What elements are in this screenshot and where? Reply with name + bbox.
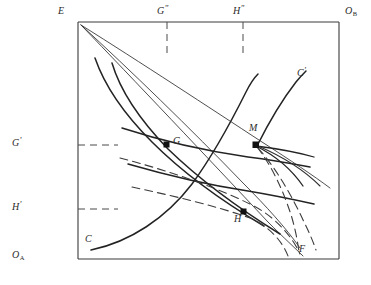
dashed-offer-2	[132, 187, 288, 256]
label-curve-c: C	[85, 234, 92, 244]
label-point-g: G	[173, 136, 180, 146]
label-origin-a: OA	[12, 250, 24, 260]
curve-Cprime-branch	[257, 71, 306, 146]
label-tick-h-double-prime: H"	[233, 6, 244, 16]
point-markers	[164, 142, 260, 215]
label-tick-g-prime: G'	[12, 138, 22, 148]
label-curve-f: F	[299, 244, 305, 254]
box-axes	[78, 22, 339, 259]
diagram-svg	[0, 0, 371, 285]
marker-M	[253, 142, 260, 149]
label-point-h: H	[234, 214, 241, 224]
label-tick-g-double-prime: G"	[157, 6, 168, 16]
figure-canvas: E OA OB G' H' G" H" G M H C C' F	[0, 0, 371, 285]
label-point-m: M	[249, 123, 258, 133]
m-branch-upper	[256, 146, 314, 157]
marker-G	[164, 142, 170, 148]
label-tick-h-prime: H'	[12, 202, 22, 212]
label-endowment-E: E	[58, 6, 64, 16]
ray-E-to-F	[81, 25, 303, 256]
label-origin-b: OB	[345, 6, 357, 16]
label-curve-c-prime: C'	[297, 68, 306, 78]
guide-lines	[78, 22, 243, 209]
